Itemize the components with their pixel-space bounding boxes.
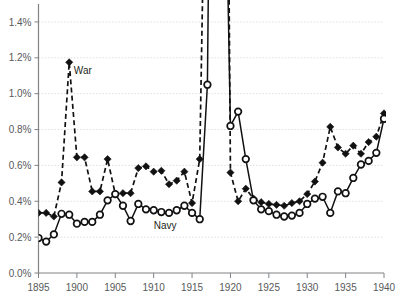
data-point-war bbox=[73, 154, 80, 161]
data-point-navy bbox=[273, 211, 280, 218]
data-point-navy bbox=[373, 150, 380, 157]
data-point-war bbox=[281, 202, 288, 209]
data-point-navy bbox=[166, 210, 173, 217]
data-point-navy bbox=[189, 210, 196, 217]
data-point-navy bbox=[358, 161, 365, 168]
data-point-navy bbox=[266, 208, 273, 215]
y-tick-label: 0.6% bbox=[9, 160, 32, 171]
data-point-war bbox=[188, 199, 195, 206]
data-point-war bbox=[158, 167, 165, 174]
x-tick-label: 1895 bbox=[27, 282, 50, 293]
data-point-navy bbox=[312, 195, 319, 202]
data-point-navy bbox=[173, 207, 180, 214]
data-point-navy bbox=[81, 219, 88, 226]
data-point-navy bbox=[104, 197, 111, 204]
data-point-navy bbox=[43, 238, 50, 245]
data-point-navy bbox=[350, 175, 357, 182]
chart-container: 0.0%0.2%0.4%0.6%0.8%1.0%1.2%1.4% 1895190… bbox=[0, 0, 400, 305]
data-point-navy bbox=[227, 123, 234, 130]
y-tick-label: 0.2% bbox=[9, 232, 32, 243]
x-axis-tick-labels: 1895190019051910191519201925193019351940 bbox=[27, 282, 395, 293]
data-point-navy bbox=[97, 211, 104, 218]
y-tick-label: 1.4% bbox=[9, 17, 32, 28]
series-label-navy: Navy bbox=[154, 220, 177, 231]
data-point-war bbox=[165, 181, 172, 188]
gridlines bbox=[39, 22, 385, 237]
x-tick-label: 1915 bbox=[181, 282, 204, 293]
y-tick-label: 0.4% bbox=[9, 196, 32, 207]
data-point-navy bbox=[127, 218, 134, 225]
x-tick-label: 1905 bbox=[104, 282, 127, 293]
data-point-navy bbox=[74, 220, 81, 227]
y-axis-tick-labels: 0.0%0.2%0.4%0.6%0.8%1.0%1.2%1.4% bbox=[9, 17, 32, 279]
line-chart: 0.0%0.2%0.4%0.6%0.8%1.0%1.2%1.4% 1895190… bbox=[0, 0, 400, 305]
data-point-navy bbox=[120, 202, 127, 209]
series-navy bbox=[35, 0, 387, 245]
data-point-war bbox=[227, 169, 234, 176]
series-line-war bbox=[39, 0, 385, 217]
data-point-navy bbox=[51, 231, 58, 238]
data-point-navy bbox=[243, 156, 250, 163]
data-point-navy bbox=[235, 108, 242, 115]
x-tick-label: 1925 bbox=[258, 282, 281, 293]
series-line-navy bbox=[39, 0, 385, 242]
x-tick-label: 1940 bbox=[373, 282, 396, 293]
data-point-war bbox=[119, 190, 126, 197]
data-point-navy bbox=[296, 210, 303, 217]
data-point-navy bbox=[250, 197, 257, 204]
data-series bbox=[35, 0, 388, 245]
y-tick-label: 1.0% bbox=[9, 88, 32, 99]
x-tick-label: 1910 bbox=[143, 282, 166, 293]
data-point-navy bbox=[66, 211, 73, 218]
data-point-war bbox=[81, 154, 88, 161]
data-point-navy bbox=[181, 202, 188, 209]
data-point-war bbox=[43, 209, 50, 216]
data-point-war bbox=[104, 156, 111, 163]
y-tick-label: 0.0% bbox=[9, 268, 32, 279]
data-point-navy bbox=[143, 206, 150, 213]
data-point-war bbox=[196, 156, 203, 163]
series-war bbox=[35, 0, 388, 220]
data-point-war bbox=[96, 188, 103, 195]
data-point-navy bbox=[35, 235, 42, 242]
data-point-navy bbox=[335, 188, 342, 195]
data-point-navy bbox=[342, 190, 349, 197]
data-point-war bbox=[35, 209, 42, 216]
data-point-war bbox=[66, 59, 73, 66]
x-tick-label: 1935 bbox=[334, 282, 357, 293]
data-point-navy bbox=[204, 81, 211, 88]
x-tick-label: 1930 bbox=[296, 282, 319, 293]
data-point-war bbox=[89, 188, 96, 195]
data-point-war bbox=[288, 199, 295, 206]
data-point-navy bbox=[112, 191, 119, 198]
data-point-war bbox=[150, 168, 157, 175]
data-point-war bbox=[258, 199, 265, 206]
data-point-war bbox=[50, 213, 57, 220]
data-point-war bbox=[319, 159, 326, 166]
series-label-war: War bbox=[74, 65, 93, 76]
data-point-navy bbox=[58, 211, 65, 218]
data-point-navy bbox=[365, 158, 372, 165]
data-point-navy bbox=[327, 210, 334, 217]
data-point-navy bbox=[258, 206, 265, 213]
y-tick-label: 1.2% bbox=[9, 52, 32, 63]
data-point-war bbox=[58, 179, 65, 186]
data-point-navy bbox=[381, 115, 388, 122]
data-point-navy bbox=[158, 209, 165, 216]
data-point-navy bbox=[196, 216, 203, 223]
data-point-war bbox=[127, 190, 134, 197]
data-point-war bbox=[334, 144, 341, 151]
x-tick-label: 1900 bbox=[66, 282, 89, 293]
data-point-navy bbox=[304, 201, 311, 208]
data-point-navy bbox=[289, 212, 296, 219]
data-point-navy bbox=[281, 213, 288, 220]
data-point-navy bbox=[89, 219, 96, 226]
data-point-navy bbox=[135, 201, 142, 208]
x-tick-label: 1920 bbox=[219, 282, 242, 293]
y-tick-label: 0.8% bbox=[9, 124, 32, 135]
data-point-navy bbox=[150, 207, 157, 214]
data-point-war bbox=[273, 201, 280, 208]
data-point-navy bbox=[319, 193, 326, 200]
